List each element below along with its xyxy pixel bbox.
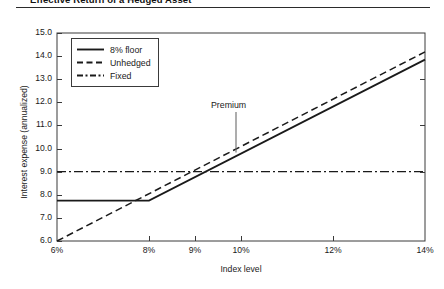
ytick-mark-right	[420, 172, 425, 173]
ytick-mark	[57, 195, 62, 196]
legend-label: 8% floor	[110, 45, 142, 55]
ytick-mark-right	[420, 125, 425, 126]
ytick-label: 15.0	[18, 27, 52, 37]
legend-swatch-dashdot-icon	[77, 70, 104, 81]
ytick-mark	[57, 218, 62, 219]
annotation-premium-label: Premium	[211, 100, 246, 110]
xtick-label: 8%	[129, 245, 169, 255]
xtick-label: 6%	[37, 245, 77, 255]
xtick-label: 9%	[175, 245, 215, 255]
chart-legend: 8% floor Unhedged Fixed	[71, 38, 159, 87]
x-axis-label: Index level	[57, 264, 425, 274]
xtick-label: 10%	[221, 245, 261, 255]
ytick-mark	[57, 125, 62, 126]
ytick-mark-right	[420, 79, 425, 80]
ytick-mark	[57, 79, 62, 80]
legend-item-unhedged: Unhedged	[77, 56, 151, 69]
legend-swatch-solid-icon	[77, 44, 104, 55]
xtick-mark	[149, 236, 150, 241]
xtick-mark	[241, 236, 242, 241]
xtick-label: 14%	[405, 245, 444, 255]
legend-item-fixed: Fixed	[77, 69, 151, 82]
xtick-label: 12%	[313, 245, 353, 255]
chart-figure: Effective Return of a Hedged Asset 6.0 7…	[0, 0, 444, 289]
legend-label: Unhedged	[110, 58, 151, 68]
ytick-mark	[57, 33, 62, 34]
xtick-mark	[333, 236, 334, 241]
y-axis-label: Interest expense (annualized)	[19, 37, 29, 247]
legend-item-8pct-floor: 8% floor	[77, 43, 151, 56]
ytick-mark	[57, 241, 62, 242]
ytick-mark	[57, 149, 62, 150]
ytick-mark	[57, 102, 62, 103]
ytick-mark	[57, 56, 62, 57]
legend-swatch-dashed-icon	[77, 57, 104, 68]
xtick-mark	[195, 236, 196, 241]
legend-label: Fixed	[110, 71, 132, 81]
ytick-mark	[57, 172, 62, 173]
